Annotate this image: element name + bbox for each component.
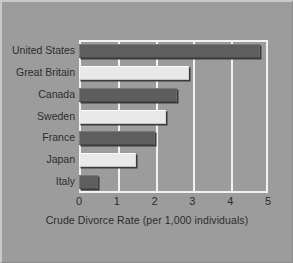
x-tick-label: 3 bbox=[180, 195, 204, 208]
value-axis-tick-labels: 012345 bbox=[2, 195, 293, 211]
x-tick-label: 1 bbox=[105, 195, 129, 208]
x-tick-label: 5 bbox=[256, 195, 280, 208]
category-label: United States bbox=[0, 45, 75, 56]
category-label: Italy bbox=[0, 176, 75, 187]
category-label: Great Britain bbox=[0, 67, 75, 78]
category-axis-labels: United StatesGreat BritainCanadaSwedenFr… bbox=[2, 40, 293, 193]
x-tick-label: 4 bbox=[218, 195, 242, 208]
category-label: Sweden bbox=[0, 111, 75, 122]
category-label: France bbox=[0, 132, 75, 143]
category-label: Canada bbox=[0, 89, 75, 100]
x-tick-label: 2 bbox=[143, 195, 167, 208]
category-label: Japan bbox=[0, 154, 75, 165]
x-tick-label: 0 bbox=[67, 195, 91, 208]
chart-figure: United StatesGreat BritainCanadaSwedenFr… bbox=[0, 0, 293, 263]
x-axis-title: Crude Divorce Rate (per 1,000 individual… bbox=[2, 214, 292, 226]
